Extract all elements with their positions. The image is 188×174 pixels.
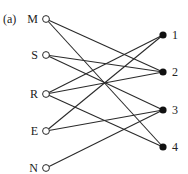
right-node-label-3: 3 (172, 104, 178, 116)
open-node-s (43, 52, 50, 59)
filled-node-2 (159, 68, 166, 75)
filled-node-1 (159, 31, 166, 38)
graph-nodes (43, 16, 167, 172)
graph-edges (46, 19, 163, 168)
edge-e-1 (46, 35, 163, 131)
open-node-n (43, 165, 50, 172)
panel-label: (a) (3, 13, 16, 25)
filled-node-3 (159, 106, 166, 113)
open-node-r (43, 91, 50, 98)
left-node-label-m: M (24, 13, 38, 25)
bipartite-graph (0, 0, 188, 174)
open-node-e (43, 128, 50, 135)
left-node-label-n: N (24, 162, 38, 174)
right-node-label-4: 4 (172, 141, 178, 153)
left-node-label-e: E (24, 125, 38, 137)
open-node-m (43, 16, 50, 23)
left-node-label-s: S (24, 49, 38, 61)
left-node-label-r: R (24, 88, 38, 100)
right-node-label-2: 2 (172, 66, 178, 78)
filled-node-4 (159, 143, 166, 150)
right-node-label-1: 1 (172, 29, 178, 41)
